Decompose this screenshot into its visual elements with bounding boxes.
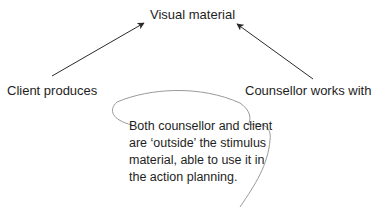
arrow-client-to-visual [52,23,144,76]
note-line: the action planning. [129,169,294,186]
note-line: Both counsellor and client [129,118,294,135]
arrow-counsellor-to-visual [237,24,313,79]
note-line: material, able to use it in [129,152,294,169]
node-visual-material: Visual material [150,7,235,22]
speech-bubble-note: Both counsellor and client are ‘outside’… [129,118,294,186]
node-client-produces: Client produces [7,83,97,98]
note-line: are ‘outside’ the stimulus [129,135,294,152]
node-counsellor-works-with: Counsellor works with [245,83,371,98]
